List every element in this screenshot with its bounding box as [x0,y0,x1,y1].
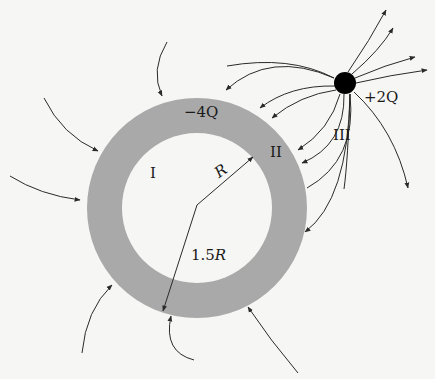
region-1-label: I [150,164,156,182]
point-charge [334,72,356,94]
field-line [356,70,427,83]
field-line [305,94,350,232]
field-line [272,90,336,118]
outer-radius-label: 1.5R [191,246,226,264]
field-diagram-svg [0,0,435,379]
field-line [169,316,194,360]
point-charge-label: +2Q [364,88,398,106]
shell-charge-label: −4Q [184,103,218,121]
field-line [354,92,408,188]
field-line [227,62,334,78]
field-line [248,307,298,373]
field-line [355,57,415,78]
field-line [157,42,167,96]
field-line [82,285,112,353]
region-3-label: III [333,126,351,144]
field-line [44,98,98,151]
outer-radius-number: 1.5 [191,246,215,264]
field-line [10,176,80,200]
region-2-label: II [270,143,282,161]
field-line [352,28,393,74]
field-line [260,86,335,108]
diagram-canvas: −4Q +2Q I II III R 1.5R [0,0,435,379]
field-line [348,10,386,72]
outer-radius-variable: R [215,246,226,264]
